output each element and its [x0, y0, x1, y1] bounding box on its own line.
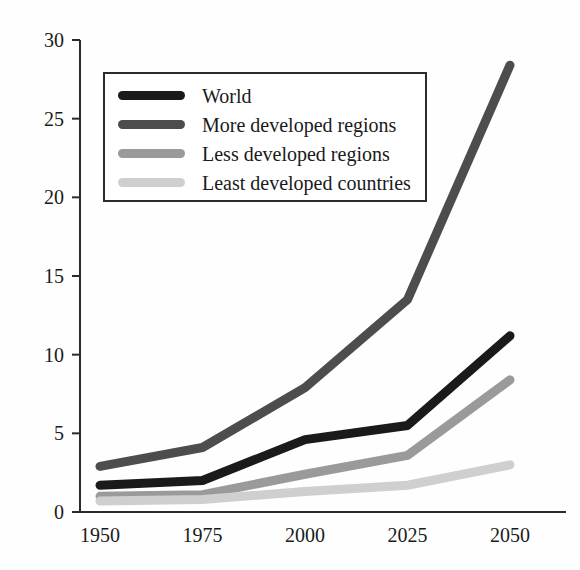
y-axis-tick-label: 20 — [20, 186, 64, 209]
series-line — [100, 336, 510, 485]
legend-swatch-more-developed-regions — [118, 120, 185, 129]
legend-label-more-developed-regions: More developed regions — [202, 115, 396, 135]
line-chart: 051015202530 19501975200020252050 World … — [0, 0, 580, 570]
legend-swatch-world — [118, 91, 185, 100]
legend-label-least-developed-countries: Least developed countries — [202, 173, 411, 193]
legend-item-more-developed-regions: More developed regions — [105, 110, 425, 139]
y-axis-tick-label: 30 — [20, 29, 64, 52]
legend-label-world: World — [202, 86, 252, 106]
y-axis-tick-label: 10 — [20, 343, 64, 366]
x-axis-tick-label: 1975 — [183, 524, 223, 547]
legend-swatch-least-developed-countries — [118, 178, 185, 187]
legend-item-world: World — [105, 81, 425, 110]
chart-legend: World More developed regions Less develo… — [103, 72, 427, 202]
y-axis-tick-label: 5 — [20, 422, 64, 445]
legend-item-least-developed-countries: Least developed countries — [105, 168, 425, 197]
y-axis-ticks — [72, 40, 80, 512]
x-axis-tick-label: 1950 — [80, 524, 120, 547]
x-axis-tick-label: 2000 — [285, 524, 325, 547]
x-axis-tick-label: 2025 — [388, 524, 428, 547]
legend-label-less-developed-regions: Less developed regions — [202, 144, 390, 164]
x-axis-tick-label: 2050 — [490, 524, 530, 547]
y-axis-tick-label: 25 — [20, 107, 64, 130]
legend-item-less-developed-regions: Less developed regions — [105, 139, 425, 168]
y-axis-tick-label: 15 — [20, 265, 64, 288]
legend-swatch-less-developed-regions — [118, 149, 185, 158]
y-axis-tick-label: 0 — [20, 501, 64, 524]
